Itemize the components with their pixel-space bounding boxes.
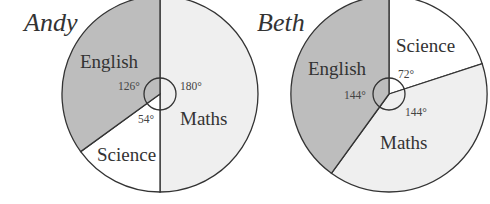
beth-english-label: English	[308, 58, 367, 79]
andy-maths-slice	[160, 0, 258, 192]
beth-english-angle: 144°	[344, 89, 366, 101]
pie-charts-diagram: Andy English Maths Science 126° 180° 54°…	[0, 0, 490, 204]
andy-pie-chart: Andy English Maths Science 126° 180° 54°	[22, 0, 258, 192]
andy-science-label: Science	[97, 144, 156, 165]
andy-science-angle: 54°	[138, 113, 155, 125]
andy-english-label: English	[80, 51, 139, 72]
beth-title: Beth	[257, 8, 305, 37]
beth-maths-label: Maths	[380, 132, 428, 153]
andy-maths-angle: 180°	[180, 80, 202, 92]
andy-maths-label: Maths	[180, 108, 228, 129]
beth-pie-chart: Beth English Science Maths 144° 72° 144°	[257, 0, 487, 192]
beth-maths-angle: 144°	[405, 106, 427, 118]
beth-science-label: Science	[396, 35, 455, 56]
beth-science-angle: 72°	[398, 68, 415, 80]
andy-title: Andy	[22, 8, 78, 37]
andy-english-angle: 126°	[118, 80, 140, 92]
